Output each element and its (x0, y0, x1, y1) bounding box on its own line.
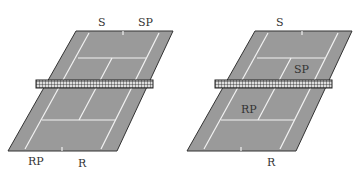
tennis-court-right (187, 31, 352, 151)
label-receiver: R (78, 158, 86, 169)
label-receiver-partner: RP (28, 156, 44, 167)
label-server-partner: SP (138, 17, 153, 28)
diagram-canvas (0, 0, 359, 178)
tennis-court-left (8, 31, 173, 151)
label-server-partner: SP (294, 64, 309, 75)
label-server: S (276, 17, 284, 28)
label-receiver: R (267, 157, 275, 168)
label-receiver-partner: RP (241, 104, 257, 115)
label-server: S (98, 17, 106, 28)
